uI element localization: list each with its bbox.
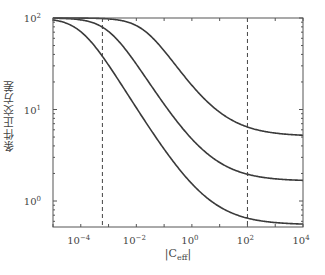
chart: 10−410−2100102104100101102 |Ceff| bbox=[0, 0, 325, 275]
tick-label: 100 bbox=[181, 234, 198, 246]
tick-label: 100 bbox=[24, 195, 41, 207]
series-layer bbox=[53, 18, 303, 224]
curve-2-line bbox=[53, 18, 303, 180]
y-axis-title: 条件正交方差 bbox=[2, 80, 20, 152]
tick-label: 102 bbox=[24, 12, 41, 24]
tick-label: 10−4 bbox=[67, 234, 91, 246]
x-axis-title: |Ceff| bbox=[165, 247, 191, 262]
tick-label: 104 bbox=[292, 234, 310, 246]
tick-label: 10−2 bbox=[123, 234, 146, 246]
tick-label: 102 bbox=[237, 234, 254, 246]
tick-label: 101 bbox=[24, 104, 41, 116]
curve-3-line bbox=[53, 18, 303, 135]
axis-ticks: 10−410−2100102104100101102 bbox=[24, 12, 310, 246]
reference-lines bbox=[102, 18, 247, 227]
